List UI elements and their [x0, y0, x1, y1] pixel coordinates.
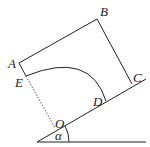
- incline-line: [37, 79, 146, 142]
- diagram-canvas: A B C D E O α: [0, 0, 150, 147]
- geometry-figure: A B C D E O α: [0, 0, 150, 147]
- label-E: E: [14, 75, 23, 90]
- side-BC: [97, 19, 132, 84]
- label-C: C: [133, 70, 142, 85]
- angle-alpha-arc: [65, 126, 69, 142]
- label-B: B: [100, 4, 108, 19]
- label-A: A: [7, 56, 16, 71]
- dotted-EO: [26, 76, 55, 128]
- side-AB: [19, 19, 97, 63]
- label-D: D: [92, 94, 103, 109]
- label-alpha: α: [55, 128, 63, 143]
